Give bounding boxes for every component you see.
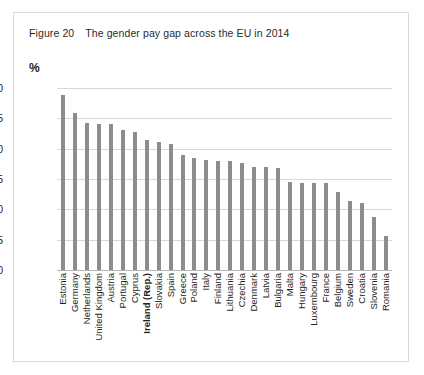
bar (336, 192, 340, 270)
bar-cell (93, 88, 105, 270)
x-axis-label-cell: Romania (380, 273, 392, 375)
x-axis-label-cell: Finland (212, 273, 224, 375)
bar-cell (320, 88, 332, 270)
chart-plot-area: 051015202530 (57, 88, 392, 270)
bar (288, 182, 292, 270)
x-axis-label-cell: Italy (200, 273, 212, 375)
figure-title-text: The gender pay gap across the EU in 2014 (85, 27, 289, 39)
x-axis-label-cell: Sweden (344, 273, 356, 375)
x-axis-label: Poland (190, 273, 200, 303)
bar (276, 168, 280, 270)
bar-cell (224, 88, 236, 270)
bar-cell (200, 88, 212, 270)
x-axis-label: Hungary (297, 273, 307, 309)
x-axis-label: Croatia (357, 273, 367, 304)
x-axis-label-cell: Luxembourg (308, 273, 320, 375)
bar-series (57, 88, 392, 270)
bar (145, 140, 149, 270)
bar (192, 158, 196, 270)
x-axis-label: Netherlands (82, 273, 92, 324)
bar (300, 183, 304, 270)
bar-cell (380, 88, 392, 270)
x-axis-label-cell: Ireland (Rep.) (141, 273, 153, 375)
bar (240, 163, 244, 270)
x-axis-label-cell: Portugal (117, 273, 129, 375)
x-axis-label-cell: Poland (188, 273, 200, 375)
bar (61, 95, 65, 270)
figure-card: Figure 20The gender pay gap across the E… (13, 12, 409, 362)
bar (264, 167, 268, 270)
bar (384, 236, 388, 270)
x-axis-label-cell: Denmark (248, 273, 260, 375)
y-axis-tick: 25 (0, 112, 3, 124)
x-axis-label: Slovakia (154, 273, 164, 309)
bar-cell (356, 88, 368, 270)
x-axis-label: Finland (214, 273, 224, 304)
x-axis-label: United Kingdom (94, 273, 104, 341)
bar-cell (236, 88, 248, 270)
x-axis-label: Latvia (261, 273, 271, 298)
bar-cell (69, 88, 81, 270)
bar-cell (129, 88, 141, 270)
bar-cell (308, 88, 320, 270)
x-axis-label: Luxembourg (309, 273, 319, 326)
x-axis-label: Cyprus (130, 273, 140, 303)
bar-cell (57, 88, 69, 270)
y-axis-tick: 20 (0, 143, 3, 155)
x-axis-label-cell: Slovakia (153, 273, 165, 375)
x-axis-label: Ireland (Rep.) (142, 273, 152, 334)
x-axis-label: France (321, 273, 331, 303)
bar (169, 144, 173, 270)
bar-cell (260, 88, 272, 270)
bar (181, 155, 185, 270)
x-axis-category-labels: EstoniaGermanyNetherlandsUnited KingdomA… (57, 273, 392, 375)
x-axis-label: Romania (381, 273, 391, 311)
x-axis-label: Malta (285, 273, 295, 296)
bar-cell (368, 88, 380, 270)
x-axis-label-cell: Malta (284, 273, 296, 375)
bar (109, 124, 113, 270)
x-axis-label: Czechia (238, 273, 248, 307)
x-axis-label-cell: Belgium (332, 273, 344, 375)
y-axis-tick: 15 (0, 173, 3, 185)
bar-cell (344, 88, 356, 270)
x-axis-label: Spain (166, 273, 176, 297)
x-axis-label-cell: Estonia (57, 273, 69, 375)
bar-cell (141, 88, 153, 270)
gridline (57, 270, 392, 271)
x-axis-label: Bulgaria (273, 273, 283, 308)
x-axis-label-cell: Slovenia (368, 273, 380, 375)
x-axis-label-cell: Czechia (236, 273, 248, 375)
bar (85, 123, 89, 270)
y-axis-tick: 5 (0, 234, 3, 246)
x-axis-label-cell: France (320, 273, 332, 375)
x-axis-label: Sweden (345, 273, 355, 307)
x-axis-label: Austria (106, 273, 116, 303)
bar (252, 167, 256, 270)
y-axis-tick: 0 (0, 264, 3, 276)
bar (312, 183, 316, 270)
x-axis-label: Italy (202, 273, 212, 290)
x-axis-label: Portugal (118, 273, 128, 308)
bar-cell (296, 88, 308, 270)
x-axis-label-cell: Cyprus (129, 273, 141, 375)
x-axis-label: Lithuania (226, 273, 236, 312)
bar-cell (248, 88, 260, 270)
figure-number: Figure 20 (29, 27, 74, 39)
bar (228, 161, 232, 270)
bar (204, 160, 208, 270)
figure-caption: Figure 20The gender pay gap across the E… (29, 27, 289, 39)
bar-cell (284, 88, 296, 270)
x-axis-label: Belgium (333, 273, 343, 307)
y-axis-tick: 30 (0, 82, 3, 94)
x-axis-label: Greece (178, 273, 188, 304)
bar (348, 201, 352, 270)
x-axis-label-cell: Hungary (296, 273, 308, 375)
x-axis-label-cell: United Kingdom (93, 273, 105, 375)
x-axis-label: Estonia (58, 273, 68, 305)
bar-cell (153, 88, 165, 270)
x-axis-label-cell: Netherlands (81, 273, 93, 375)
x-axis-label-cell: Austria (105, 273, 117, 375)
bar-cell (177, 88, 189, 270)
bar (360, 203, 364, 270)
